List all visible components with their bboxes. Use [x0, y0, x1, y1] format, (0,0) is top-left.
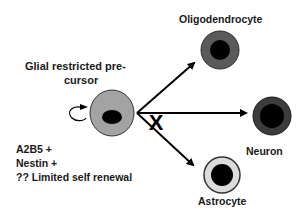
astrocyte-cell-icon [204, 157, 240, 193]
oligodendrocyte-cell-icon [201, 31, 239, 69]
arrow-to-oligodendrocyte [137, 63, 194, 113]
precursor-cell-icon [90, 90, 134, 136]
self-renewal-loop-icon [70, 104, 88, 121]
lineage-diagram: X [0, 0, 305, 211]
blocked-x-icon: X [149, 110, 164, 135]
arrow-to-astrocyte [137, 113, 193, 165]
neuron-cell-icon [253, 97, 291, 135]
